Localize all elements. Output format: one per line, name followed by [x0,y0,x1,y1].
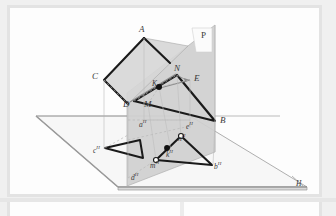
label-D: D [123,100,130,109]
label-bH: bH [214,162,221,170]
figure-root: A B C D E N M K P H aH bH cH dH eH kH mH… [0,0,336,216]
label-A: A [139,25,145,34]
label-plane-P: P [201,31,206,40]
label-cH: cH [93,146,100,154]
label-nH: nH [178,134,185,142]
label-K: K [152,80,157,88]
label-M: M [144,100,152,109]
label-kH: kH [166,150,173,158]
label-E: E [194,74,200,83]
label-eH: eH [186,122,193,130]
label-C: C [92,72,98,81]
label-N: N [174,64,180,73]
label-plane-H: H [296,180,301,188]
geometry-drawing [0,0,336,216]
label-aH: aH [139,120,146,128]
label-B: B [220,116,226,125]
label-dH: dH [131,173,138,181]
label-mH: mH [150,161,159,169]
